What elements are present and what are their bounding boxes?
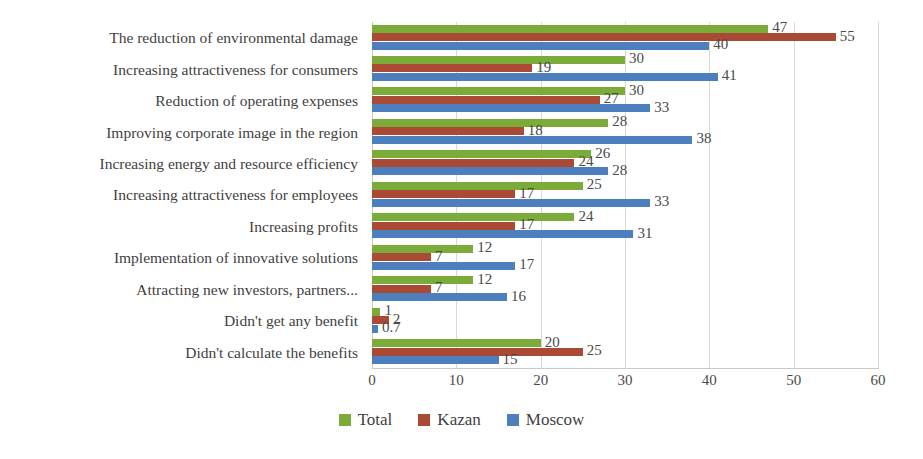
legend-item-total[interactable]: Total [339,410,393,430]
bar-kazan [372,159,574,167]
bar-total [372,339,541,347]
data-label: 17 [519,257,534,272]
category-label: Increasing profits [0,211,366,242]
legend-label: Moscow [526,410,585,430]
bar-moscow [372,73,718,81]
data-label: 28 [612,114,627,129]
category-label: Didn't get any benefit [0,305,366,336]
bar-moscow [372,104,650,112]
bar-group: 12716 [372,274,878,305]
x-tick-label: 50 [786,372,801,389]
bar-group: 251733 [372,179,878,210]
bar-group: 241731 [372,211,878,242]
bar-kazan [372,33,836,41]
bar-group: 301941 [372,53,878,84]
category-label: The reduction of environmental damage [0,22,366,53]
bar-moscow [372,167,608,175]
legend-item-moscow[interactable]: Moscow [507,410,585,430]
data-label: 55 [840,29,855,44]
bar-moscow [372,325,378,333]
bar-kazan [372,127,524,135]
x-tick-label: 40 [702,372,717,389]
data-label: 12 [477,240,492,255]
category-label: Reduction of operating expenses [0,85,366,116]
data-label: 16 [511,289,526,304]
bar-kazan [372,348,583,356]
bar-kazan [372,285,431,293]
bar-kazan [372,190,515,198]
data-label: 15 [503,352,518,367]
category-label: Attracting new investors, partners... [0,274,366,305]
data-label: 12 [477,272,492,287]
bar-kazan [372,64,532,72]
bar-moscow [372,136,692,144]
chart-legend: TotalKazanMoscow [0,410,923,430]
bar-kazan [372,222,515,230]
bar-group: 302733 [372,85,878,116]
bar-total [372,150,591,158]
bar-group: 475540 [372,22,878,53]
bar-total [372,87,625,95]
bar-total [372,308,380,316]
data-label: 40 [713,37,728,52]
data-label: 33 [654,194,669,209]
gridline [878,22,879,368]
x-axis-tick-labels: 0102030405060 [372,372,878,394]
bar-group: 281838 [372,116,878,147]
category-axis: The reduction of environmental damageInc… [0,22,366,368]
bar-kazan [372,96,600,104]
x-axis-line [372,368,879,369]
data-label: 30 [629,83,644,98]
data-label: 24 [578,209,593,224]
bar-chart: The reduction of environmental damageInc… [0,0,923,459]
category-label: Increasing attractiveness for consumers [0,53,366,84]
bar-total [372,182,583,190]
data-label: 25 [587,177,602,192]
bar-moscow [372,293,507,301]
legend-swatch-icon [418,414,430,426]
bar-moscow [372,42,709,50]
legend-swatch-icon [339,414,351,426]
data-label: 25 [587,343,602,358]
bar-moscow [372,230,633,238]
category-label: Improving corporate image in the region [0,116,366,147]
category-label: Didn't calculate the benefits [0,337,366,368]
data-label: 28 [612,163,627,178]
bar-group: 12717 [372,242,878,273]
bar-moscow [372,356,499,364]
bar-group: 262428 [372,148,878,179]
data-label: 33 [654,100,669,115]
x-tick-label: 0 [368,372,376,389]
bar-group: 202515 [372,337,878,368]
category-label: Increasing energy and resource efficienc… [0,148,366,179]
legend-swatch-icon [507,414,519,426]
bar-moscow [372,262,515,270]
data-label: 38 [696,131,711,146]
bar-moscow [372,199,650,207]
x-tick-label: 20 [533,372,548,389]
data-label: 0.7 [382,320,401,335]
legend-label: Total [358,410,393,430]
bar-group: 120.7 [372,305,878,336]
bar-kazan [372,253,431,261]
category-label: Increasing attractiveness for employees [0,179,366,210]
category-label: Implementation of innovative solutions [0,242,366,273]
data-label: 26 [595,146,610,161]
data-label: 31 [637,226,652,241]
data-label: 41 [722,68,737,83]
data-label: 30 [629,51,644,66]
legend-label: Kazan [437,410,480,430]
bar-total [372,276,473,284]
bar-total [372,245,473,253]
bar-total [372,56,625,64]
legend-item-kazan[interactable]: Kazan [418,410,480,430]
x-tick-label: 30 [618,372,633,389]
bar-total [372,119,608,127]
bar-total [372,213,574,221]
x-tick-label: 60 [871,372,886,389]
x-tick-label: 10 [449,372,464,389]
bar-total [372,25,768,33]
plot-area: 4755403019413027332818382624282517332417… [372,22,878,368]
